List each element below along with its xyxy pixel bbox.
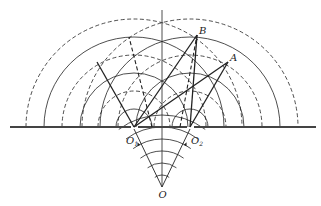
path-line <box>180 35 197 127</box>
path-line <box>97 62 134 127</box>
label-a: A <box>229 52 237 63</box>
wavefront-arc <box>118 55 262 127</box>
wavefront-arc <box>62 55 206 127</box>
path-line <box>134 35 197 127</box>
path-line <box>190 35 197 127</box>
barrier-segment <box>10 126 131 128</box>
ray-line <box>162 129 190 187</box>
label-o1: O1 <box>126 135 138 147</box>
interference-diagram: B A O1 O2 O <box>0 0 321 206</box>
path-line <box>190 62 228 127</box>
point-labels: B A O1 O2 O <box>126 25 237 200</box>
ray-line <box>134 129 162 187</box>
wavefronts-slit-1 <box>26 19 242 127</box>
slit-barrier <box>10 126 316 128</box>
path-line <box>129 37 152 127</box>
label-o2: O2 <box>191 135 203 147</box>
label-b: B <box>198 25 206 36</box>
barrier-segment <box>194 126 316 128</box>
wavefront-arc <box>80 73 188 127</box>
label-o: O <box>159 189 167 200</box>
